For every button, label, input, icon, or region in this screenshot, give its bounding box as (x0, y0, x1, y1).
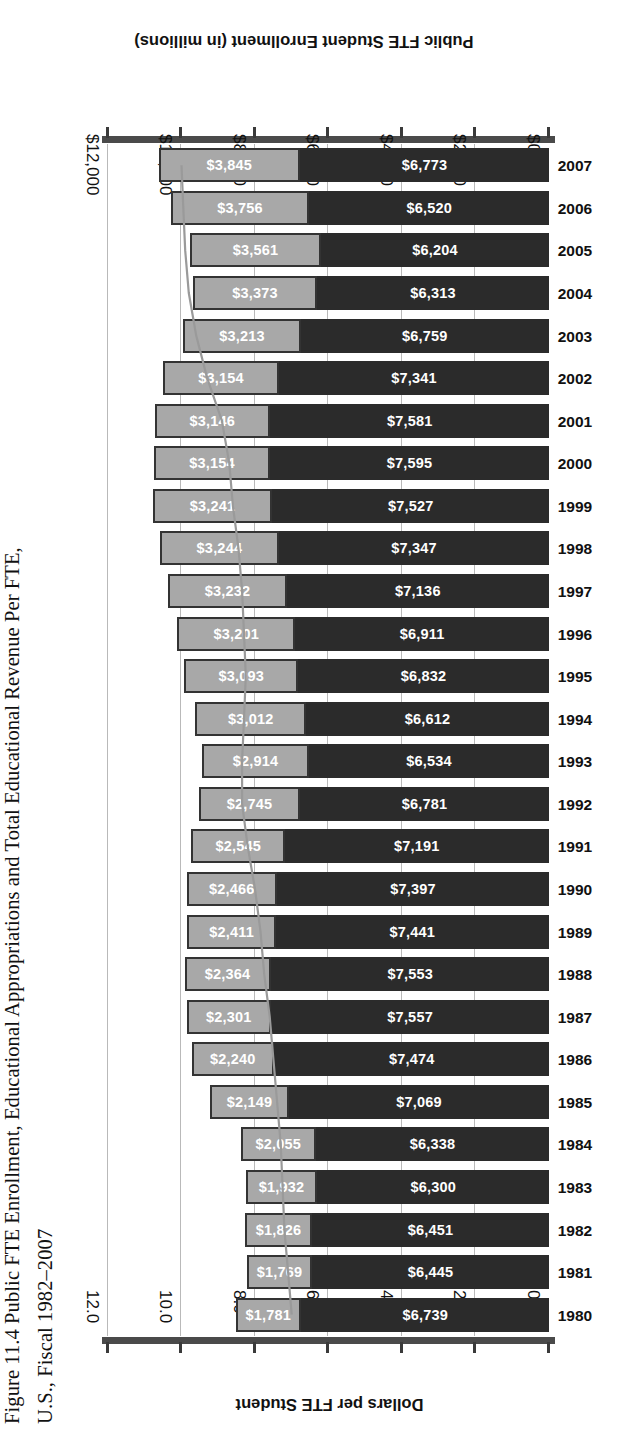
year-axis-label: 1992 (553, 796, 597, 814)
year-axis-label: 2003 (553, 328, 597, 346)
chart-canvas: $0$2,000$4,000$6,000$8,000$10,000$12,000… (0, 0, 627, 1436)
year-axis-label: 2005 (553, 242, 597, 260)
enrollment-tick (327, 1342, 330, 1353)
year-axis-label: 1987 (553, 1009, 597, 1027)
enrollment-polyline (182, 165, 292, 1314)
year-axis-label: 1985 (553, 1094, 597, 1112)
year-axis-label: 2000 (553, 455, 597, 473)
year-axis-label: 1980 (553, 1307, 597, 1325)
year-axis-label: 1998 (553, 540, 597, 558)
year-axis-label: 1983 (553, 1179, 597, 1197)
year-axis-label: 1996 (553, 626, 597, 644)
dollars-tick (474, 127, 477, 138)
year-axis-label: 2007 (553, 157, 597, 175)
year-axis-label: 1993 (553, 753, 597, 771)
enrollment-tick (180, 1342, 183, 1353)
dollars-tick (180, 127, 183, 138)
dollars-tick (106, 127, 109, 138)
year-axis-label: 2004 (553, 285, 597, 303)
year-axis-label: 2002 (553, 370, 597, 388)
enrollment-tick (106, 1342, 109, 1353)
dollars-axis-title: Dollars per FTE Student (236, 1395, 424, 1414)
plot-area: $0$2,000$4,000$6,000$8,000$10,000$12,000… (108, 144, 549, 1336)
year-axis-label: 1997 (553, 583, 597, 601)
year-axis-label: 2001 (553, 413, 597, 431)
year-axis-label: 1981 (553, 1264, 597, 1282)
dollars-tick (253, 127, 256, 138)
enrollment-tick (400, 1342, 403, 1353)
year-axis-label: 1995 (553, 668, 597, 686)
enrollment-tick (547, 1342, 550, 1353)
enrollment-tick (253, 1342, 256, 1353)
year-axis-label: 1986 (553, 1051, 597, 1069)
enrollment-tick (474, 1342, 477, 1353)
year-axis-label: 1990 (553, 881, 597, 899)
year-axis-label: 1994 (553, 711, 597, 729)
year-axis-label: 1984 (553, 1136, 597, 1154)
enrollment-tick-label: 12.0 (82, 1290, 102, 1323)
year-axis-label: 1999 (553, 498, 597, 516)
dollars-tick (327, 127, 330, 138)
enrollment-axis-title: Public FTE Student Enrollment (in millio… (134, 32, 473, 51)
year-axis-label: 1991 (553, 838, 597, 856)
dollars-tick (400, 127, 403, 138)
dollars-tick-label: $12,000 (82, 134, 102, 195)
year-axis-label: 2006 (553, 200, 597, 218)
year-axis-label: 1989 (553, 924, 597, 942)
year-axis-label: 1982 (553, 1222, 597, 1240)
dollars-tick (547, 127, 550, 138)
year-axis-label: 1988 (553, 966, 597, 984)
enrollment-line-series (108, 144, 549, 1336)
